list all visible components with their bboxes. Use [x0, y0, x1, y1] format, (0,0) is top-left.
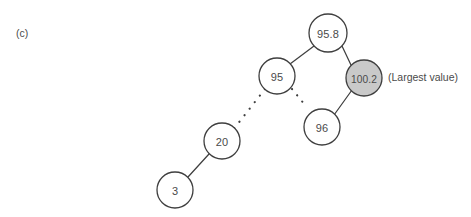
tree-diagram: 95.8 95 100.2 96 20 3: [0, 0, 471, 217]
edge-largest-to-child: [334, 90, 352, 115]
node-label-twenty: 20: [216, 136, 228, 148]
tree-nodes: 95.8 95 100.2 96 20 3: [157, 14, 382, 208]
edge-dotted-right-stub: [292, 89, 305, 105]
edge-twenty-to-three: [188, 154, 209, 177]
edge-root-to-right: [342, 46, 351, 65]
node-label-ninetysix: 96: [316, 122, 328, 134]
node-label-three: 3: [172, 185, 178, 197]
edge-dotted-left-chain: [233, 89, 265, 130]
largest-value-annotation: (Largest value): [388, 71, 458, 84]
node-label-left-child: 95: [271, 71, 283, 83]
tree-node-root[interactable]: 95.8: [309, 14, 347, 52]
tree-node-left-child[interactable]: 95: [259, 58, 295, 94]
node-label-root: 95.8: [317, 28, 339, 40]
figure-container: (c) 95.8 95 100.2: [0, 0, 471, 217]
node-label-largest: 100.2: [351, 74, 377, 85]
tree-node-twenty[interactable]: 20: [204, 123, 240, 159]
edge-root-to-left: [290, 46, 314, 64]
tree-node-largest[interactable]: 100.2: [346, 60, 382, 96]
tree-node-ninetysix[interactable]: 96: [304, 109, 340, 145]
tree-node-three[interactable]: 3: [157, 172, 193, 208]
